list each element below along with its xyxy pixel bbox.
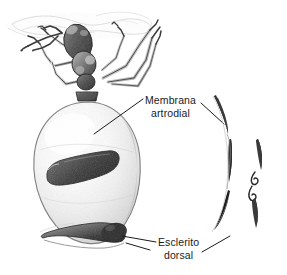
leader-line-from-esclerito-label-to-sclerite — [122, 236, 156, 242]
leader-line-from-esclerito-label-to-profile — [202, 236, 230, 252]
ant-petiole — [76, 74, 98, 101]
membrane-fold-detail — [249, 139, 262, 228]
ant-anatomy-illustration — [0, 0, 287, 275]
label-membrana-line2: artrodial — [145, 107, 196, 120]
leader-line-from-esclerito-label-to-sclerite-2 — [126, 243, 150, 250]
label-membrana-artrodial: Membrana artrodial — [145, 94, 196, 119]
label-esclerito-line1: Esclerito — [158, 236, 199, 249]
figure-container: Membrana artrodial Esclerito dorsal — [0, 0, 287, 275]
label-esclerito-dorsal: Esclerito dorsal — [158, 236, 199, 261]
label-esclerito-line2: dorsal — [158, 249, 199, 262]
label-membrana-line1: Membrana — [145, 94, 196, 107]
lower-dorsal-sclerite-plate — [40, 220, 129, 248]
